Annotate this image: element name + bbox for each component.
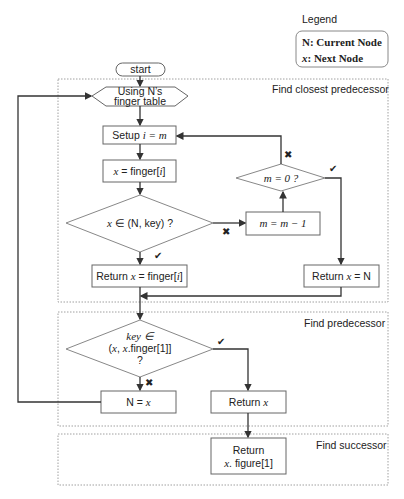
- arrow-mzero-no: [177, 136, 281, 164]
- connectors: [18, 76, 341, 437]
- legend-item-current: N: Current Node: [302, 36, 382, 48]
- return-figure-line2: x. figure[1]: [223, 457, 273, 469]
- cross-icon: ✖: [145, 377, 153, 388]
- assign-n-label: N = x: [126, 396, 151, 408]
- group-successor-label: Find successor: [316, 439, 387, 451]
- legend-item-next: x: Next Node: [301, 52, 363, 64]
- condition-key-line2: (x, x.finger[1]]: [109, 342, 172, 354]
- return-x-label: Return x: [229, 396, 268, 408]
- arrow-mzero-yes: [325, 178, 341, 264]
- check-icon: ✔: [329, 163, 337, 174]
- arrow-cond2-yes: [213, 349, 248, 390]
- return-n-label: Return x = N: [312, 270, 371, 282]
- cross-icon: ✖: [222, 226, 230, 237]
- group-closest-label: Find closest predecessor: [272, 83, 389, 95]
- arrow-retn-merge: [141, 287, 341, 296]
- check-icon: ✔: [217, 336, 225, 347]
- condition-key-line1: key ∈: [126, 330, 154, 342]
- decrement-label: m = m − 1: [259, 217, 306, 229]
- condition-m-zero-label: m = 0 ?: [264, 172, 299, 184]
- check-icon: ✔: [154, 250, 162, 261]
- legend-title: Legend: [302, 13, 337, 25]
- condition-in-range-label: x ∈ (N, key) ?: [106, 217, 173, 229]
- return-finger-label: Return x = finger[i]: [96, 270, 183, 282]
- condition-key-line3: ?: [137, 354, 143, 366]
- flowchart-canvas: Legend N: Current Node x: Next Node Find…: [0, 0, 404, 499]
- cross-icon: ✖: [284, 149, 292, 160]
- legend: Legend N: Current Node x: Next Node: [296, 13, 388, 67]
- return-figure-line1: Return: [233, 444, 265, 456]
- setup-label: Setup i = m: [112, 129, 166, 141]
- group-predecessor-label: Find predecessor: [304, 317, 386, 329]
- x-finger-label: x = finger[i]: [112, 165, 165, 177]
- finger-table-label-2: finger table: [114, 95, 166, 107]
- start-label: start: [130, 63, 151, 75]
